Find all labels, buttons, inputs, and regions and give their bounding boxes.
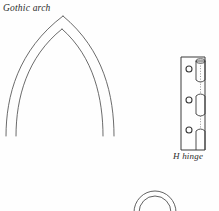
- hinge-knuckle-2-body: [196, 96, 205, 114]
- gothic-arch-drawing: [6, 16, 114, 136]
- gothic-arch-outer-right-curve: [63, 16, 114, 136]
- hinge-knuckle-2-top-arc: [196, 94, 205, 96]
- round-arch-drawing: [134, 191, 176, 211]
- h-hinge-drawing: [181, 57, 205, 150]
- gothic-arch-label: Gothic arch: [3, 4, 51, 14]
- hinge-screw-hole-3: [186, 127, 192, 133]
- round-arch-outer-arc: [134, 191, 176, 211]
- gothic-arch-inner-right-curve: [62, 29, 103, 136]
- figure-canvas: Gothic arch H hinge: [0, 0, 219, 211]
- hinge-leaf-plate-outline: [181, 57, 205, 150]
- hinge-knuckle-3-body: [196, 131, 205, 150]
- line-drawing-svg: [0, 0, 219, 211]
- hinge-screw-hole-2: [186, 97, 192, 103]
- hinge-screw-hole-1: [186, 66, 192, 72]
- gothic-arch-inner-left-curve: [16, 29, 62, 136]
- hinge-knuckle-2-bottom-arc: [196, 114, 205, 116]
- hinge-knuckle-3-top-arc: [196, 129, 205, 131]
- gothic-arch-outer-left-curve: [6, 16, 63, 136]
- round-arch-inner-arc: [139, 196, 171, 211]
- h-hinge-label: H hinge: [173, 152, 203, 161]
